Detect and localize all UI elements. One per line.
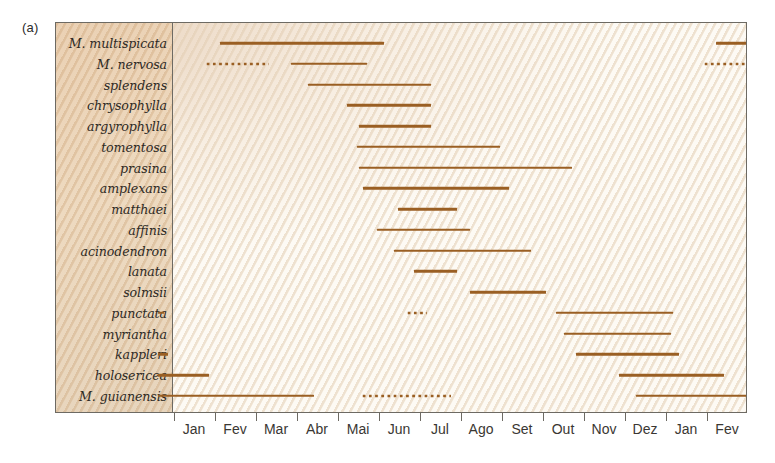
x-axis-tick-label: Jun: [388, 421, 411, 437]
phenology-bar-dotted: [703, 62, 747, 65]
phenology-bar-solid: [359, 125, 431, 128]
phenology-bar-solid: [220, 42, 384, 45]
phenology-bar-solid: [414, 270, 457, 273]
x-axis-tick: [379, 413, 380, 421]
phenology-bar-dotted: [406, 311, 427, 314]
x-axis-tick-label: Jan: [183, 421, 206, 437]
phenology-bar-solid: [347, 104, 431, 107]
species-label: amplexans: [100, 181, 167, 196]
x-axis-tick-label: Fev: [715, 421, 738, 437]
phenology-bar-solid: [576, 353, 679, 356]
species-label: chrysophylla: [87, 98, 167, 113]
phenology-bar-solid: [291, 62, 367, 65]
species-label: M. multispicata: [69, 36, 167, 51]
phenology-bar-solid: [357, 145, 501, 148]
x-axis-tick: [256, 413, 257, 421]
x-axis-tick-label: Ago: [469, 421, 494, 437]
phenology-bar-solid: [556, 311, 673, 314]
phenology-bar-dotted: [361, 394, 451, 397]
x-axis-tick-label: Mai: [347, 421, 370, 437]
x-axis-tick: [543, 413, 544, 421]
phenology-bar-solid: [394, 249, 531, 252]
phenology-bar-solid: [564, 332, 671, 335]
x-axis-tick: [584, 413, 585, 421]
plot-body: [173, 23, 746, 412]
species-label: solmsii: [123, 285, 167, 300]
x-axis-tick-label: Mar: [264, 421, 288, 437]
x-axis-tick-label: Jan: [675, 421, 698, 437]
x-axis-tick: [174, 413, 175, 421]
x-axis-tick-label: Abr: [306, 421, 328, 437]
species-label: matthaei: [111, 202, 167, 217]
x-axis-tick-label: Jul: [431, 421, 449, 437]
species-label: prasina: [120, 160, 167, 175]
species-label: M. nervosa: [97, 56, 167, 71]
species-label: tomentosa: [101, 139, 167, 154]
species-label: lanata: [128, 264, 167, 279]
species-label: M. guianensis: [79, 388, 167, 403]
x-axis-tick: [215, 413, 216, 421]
x-axis-tick: [461, 413, 462, 421]
phenology-bar-solid: [619, 374, 724, 377]
phenology-bar-solid: [716, 42, 747, 45]
phenology-bar-solid: [377, 228, 469, 231]
phenology-bar-solid: [158, 311, 164, 314]
x-axis-tick-label: Out: [552, 421, 575, 437]
x-axis-tick: [707, 413, 708, 421]
species-label: affinis: [128, 222, 167, 237]
phenology-bar-solid: [398, 208, 457, 211]
panel-letter: (a): [22, 20, 39, 35]
x-axis-tick: [338, 413, 339, 421]
x-axis-tick-label: Nov: [592, 421, 617, 437]
phenology-figure: (a) M. multispicataM. nervosasplendensch…: [0, 0, 775, 463]
phenology-bar-solid: [158, 374, 209, 377]
species-label-column: M. multispicataM. nervosasplendenschryso…: [56, 23, 173, 412]
x-axis-ticks: [55, 413, 747, 421]
species-label: splendens: [104, 77, 167, 92]
x-axis-tick-label: Dez: [633, 421, 658, 437]
phenology-bar-dotted: [205, 62, 269, 65]
species-label: myriantha: [102, 326, 167, 341]
x-axis-tick-label: Fev: [223, 421, 246, 437]
phenology-bar-solid: [308, 83, 431, 86]
x-axis-tick: [625, 413, 626, 421]
phenology-bar-solid: [363, 187, 509, 190]
x-axis-tick: [666, 413, 667, 421]
phenology-bar-solid: [158, 353, 168, 356]
phenology-bar-solid: [158, 394, 314, 397]
phenology-bar-solid: [470, 291, 546, 294]
species-label: acinodendron: [81, 243, 167, 258]
x-axis-tick-label: Set: [511, 421, 532, 437]
x-axis-tick: [297, 413, 298, 421]
phenology-bar-solid: [359, 166, 572, 169]
phenology-bar-solid: [636, 394, 747, 397]
x-axis-labels: JanFevMarAbrMaiJunJulAgoSetOutNovDezJanF…: [55, 421, 747, 443]
x-axis-tick: [502, 413, 503, 421]
x-axis-tick: [420, 413, 421, 421]
species-label: holosericea: [95, 368, 167, 383]
species-label: argyrophylla: [87, 119, 167, 134]
plot-frame: M. multispicataM. nervosasplendenschryso…: [55, 22, 747, 413]
